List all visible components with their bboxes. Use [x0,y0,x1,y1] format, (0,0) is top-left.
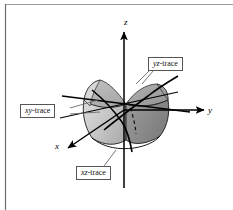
xy-trace-callout-roman: -trace [32,106,50,115]
xy-trace-callout: xy-trace [20,104,55,118]
xz-trace-callout-italic: xz [81,168,88,177]
x-axis-label: x [55,142,59,151]
figure-container: z y x xy-trace yz-trace xz-trace [0,0,233,210]
yz-trace-callout-roman: -trace [160,59,178,68]
xz-trace-callout-roman: -trace [88,168,106,177]
z-axis-label: z [124,18,128,27]
leader-xz [104,150,116,166]
xz-trace-callout: xz-trace [76,166,111,180]
yz-trace-callout-italic: yz [153,59,160,68]
y-axis-label: y [208,106,212,115]
yz-trace-callout: yz-trace [148,57,183,71]
